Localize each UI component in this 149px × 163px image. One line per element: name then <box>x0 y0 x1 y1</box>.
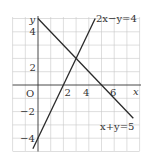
x-tick-6: 6 <box>110 87 116 98</box>
origin-label: O <box>26 88 34 99</box>
x-axis-label: x <box>133 86 139 97</box>
line-2x-minus-y-equals-4 <box>33 19 95 149</box>
y-tick-neg4: −4 <box>20 133 35 144</box>
y-tick-neg2: −2 <box>20 106 35 117</box>
y-axis-label: y <box>29 14 36 25</box>
coordinate-plane: y x O 2 4 6 4 2 −2 −4 2x−y=4 x+y=5 <box>0 0 149 163</box>
y-tick-4: 4 <box>30 26 36 37</box>
line-x-plus-y-equals-5 <box>38 19 133 119</box>
equation-label-line2: x+y=5 <box>100 121 134 132</box>
x-tick-2: 2 <box>65 87 71 98</box>
y-tick-2: 2 <box>30 62 36 73</box>
x-tick-4: 4 <box>83 87 89 98</box>
equation-label-line1: 2x−y=4 <box>96 13 137 24</box>
